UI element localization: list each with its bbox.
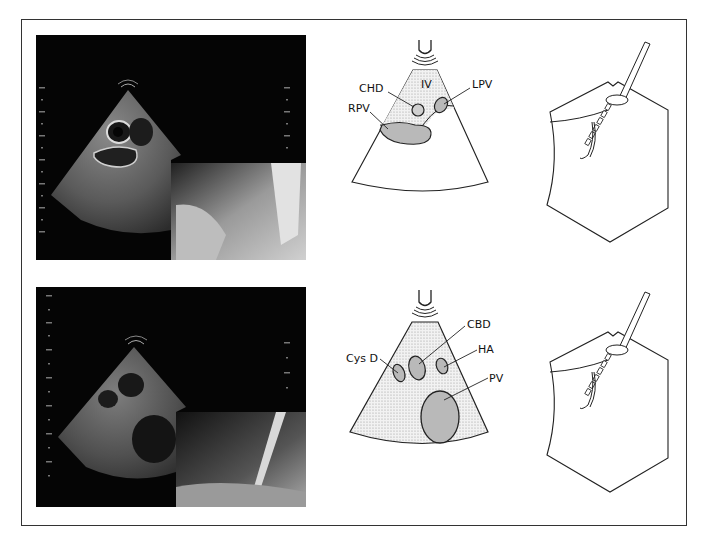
label-rpv: RPV: [348, 102, 370, 115]
ultrasound-photo-top: [36, 35, 306, 260]
label-iv: IV: [421, 78, 432, 91]
label-ha: HA: [478, 343, 494, 356]
instrument-drawing-bottom: [520, 280, 670, 500]
label-pv: PV: [489, 372, 504, 385]
label-lpv: LPV: [472, 78, 493, 91]
ultrasound-photo-bottom: [36, 287, 306, 507]
label-cys-d: Cys D: [346, 352, 378, 365]
label-cbd: CBD: [467, 318, 491, 331]
instrument-drawing-top: [520, 30, 670, 250]
label-chd: CHD: [359, 82, 383, 95]
schematic-top: CHD IV LPV RPV: [330, 30, 510, 210]
schematic-bottom: Cys D CBD HA PV: [330, 280, 510, 480]
